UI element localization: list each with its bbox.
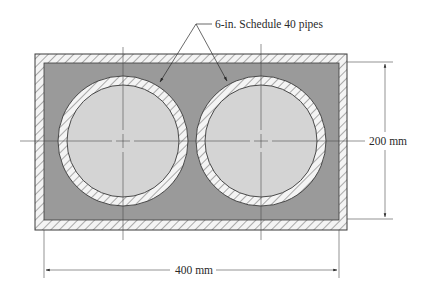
pipe-callout-label: 6-in. Schedule 40 pipes: [215, 18, 323, 31]
width-dimension-label: 400 mm: [175, 264, 213, 276]
duct-cross-section-diagram: 6-in. Schedule 40 pipes 200 mm 400 mm: [0, 0, 424, 294]
height-dimension-label: 200 mm: [369, 135, 407, 147]
